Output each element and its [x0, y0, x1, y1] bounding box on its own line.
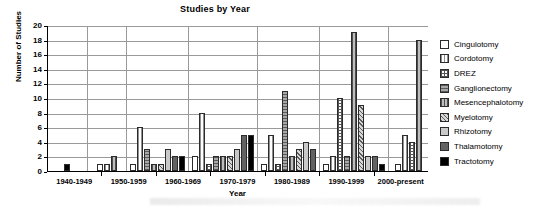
bar-drez: [206, 164, 212, 171]
bar-thalamotomy: [172, 156, 178, 171]
x-axis-ticks: 1940-19491950-19591960-19691970-19791980…: [47, 173, 428, 189]
x-axis-title: Year: [47, 189, 428, 198]
chart-title: Studies by Year: [0, 4, 430, 14]
x-tick-label: 1960-1969: [165, 177, 201, 186]
scan-artifact: [150, 198, 480, 205]
legend-item-thalamotomy[interactable]: Thalamotomy: [440, 139, 550, 154]
bar-cingulotomy: [323, 164, 329, 171]
bar-tractotomy: [379, 164, 385, 171]
y-tick-label: 12: [0, 80, 42, 88]
bar-cordotomy: [137, 127, 143, 171]
bar-group: [319, 26, 388, 171]
legend-item-rhizotomy[interactable]: Rhizotomy: [440, 125, 550, 140]
legend-swatch-ganglionectomy: [440, 84, 449, 93]
x-tick: 1980-1989: [265, 173, 319, 189]
legend-swatch-cordotomy: [440, 54, 449, 63]
bar-cordotomy: [330, 156, 336, 171]
bar-tractotomy: [179, 156, 185, 171]
legend-swatch-cingulotomy: [440, 40, 449, 49]
bar-drez: [275, 164, 281, 171]
legend-item-tractotomy[interactable]: Tractotomy: [440, 154, 550, 169]
bar-ganglionectomy: [144, 149, 150, 171]
legend-label: Thalamotomy: [454, 142, 502, 151]
legend-label: Ganglionectomy: [454, 84, 512, 93]
bar-cingulotomy: [261, 164, 267, 171]
bar-rhizotomy: [234, 149, 240, 171]
legend-item-cordotomy[interactable]: Cordotomy: [440, 52, 550, 67]
x-tick: 1970-1979: [210, 173, 264, 189]
x-tick-label: 1980-1989: [274, 177, 310, 186]
y-tick-label: 14: [0, 66, 42, 74]
x-tick: 1960-1969: [156, 173, 210, 189]
bar-tractotomy: [64, 164, 70, 171]
legend-swatch-drez: [440, 69, 449, 78]
bar-mesencephalotomy: [289, 156, 295, 171]
legend-label: Cordotomy: [454, 54, 493, 63]
bar-ganglionectomy: [282, 91, 288, 171]
y-tick-label: 20: [0, 22, 42, 30]
legend-swatch-myelotomy: [440, 113, 449, 122]
x-tick: 1950-1959: [101, 173, 155, 189]
bar-ganglionectomy: [344, 156, 350, 171]
legend: CingulotomyCordotomyDREZGanglionectomyMe…: [440, 37, 550, 168]
bar-thalamotomy: [310, 149, 316, 171]
bar-mesencephalotomy: [151, 164, 157, 171]
legend-swatch-tractotomy: [440, 157, 449, 166]
bar-myelotomy: [227, 156, 233, 171]
legend-label: DREZ: [454, 69, 476, 78]
x-tick: 2000-present: [374, 173, 428, 189]
bar-cordotomy: [104, 164, 110, 171]
bar-group: [126, 26, 188, 171]
bar-cordotomy: [402, 135, 408, 172]
y-tick-label: 2: [0, 153, 42, 161]
bar-cingulotomy: [130, 164, 136, 171]
bar-mesencephalotomy: [111, 156, 117, 171]
bar-groups: [48, 26, 428, 171]
bar-mesencephalotomy: [416, 40, 422, 171]
bar-drez: [409, 142, 415, 171]
x-tick: 1990-1999: [319, 173, 373, 189]
bar-thalamotomy: [241, 135, 247, 172]
legend-item-ganglionectomy[interactable]: Ganglionectomy: [440, 81, 550, 96]
bar-group: [388, 26, 428, 171]
bar-group: [257, 26, 319, 171]
legend-label: Mesencephalotomy: [454, 98, 523, 107]
y-tick-label: 0: [0, 168, 42, 176]
plot-area: [47, 26, 428, 172]
bar-group: [87, 26, 127, 171]
bar-drez: [337, 98, 343, 171]
x-tick-label: 1940-1949: [56, 177, 92, 186]
bar-myelotomy: [158, 164, 164, 171]
bar-rhizotomy: [165, 149, 171, 171]
legend-item-myelotomy[interactable]: Myelotomy: [440, 110, 550, 125]
bar-cordotomy: [199, 113, 205, 171]
x-tick-label: 1950-1959: [111, 177, 147, 186]
legend-item-cingulotomy[interactable]: Cingulotomy: [440, 37, 550, 52]
legend-swatch-thalamotomy: [440, 142, 449, 151]
bar-thalamotomy: [372, 156, 378, 171]
y-tick-label: 18: [0, 37, 42, 45]
bar-rhizotomy: [365, 156, 371, 171]
bar-ganglionectomy: [213, 156, 219, 171]
x-tick: 1940-1949: [47, 173, 101, 189]
bar-chart-figure: Studies by Year Number of Studies 201816…: [0, 0, 552, 208]
legend-item-drez[interactable]: DREZ: [440, 66, 550, 81]
legend-label: Rhizotomy: [454, 127, 492, 136]
bar-cingulotomy: [395, 164, 401, 171]
legend-swatch-mesencephalotomy: [440, 98, 449, 107]
y-tick-label: 8: [0, 110, 42, 118]
bar-rhizotomy: [303, 142, 309, 171]
bar-cingulotomy: [97, 164, 103, 171]
legend-label: Myelotomy: [454, 113, 493, 122]
x-tick-label: 1990-1999: [328, 177, 364, 186]
legend-label: Cingulotomy: [454, 40, 498, 49]
bar-group: [188, 26, 257, 171]
legend-label: Tractotomy: [454, 157, 494, 166]
bar-cordotomy: [268, 135, 274, 172]
legend-swatch-rhizotomy: [440, 127, 449, 136]
bar-group: [48, 26, 87, 171]
bar-mesencephalotomy: [220, 156, 226, 171]
y-tick-label: 4: [0, 139, 42, 147]
y-tick-label: 16: [0, 51, 42, 59]
legend-item-mesencephalotomy[interactable]: Mesencephalotomy: [440, 95, 550, 110]
